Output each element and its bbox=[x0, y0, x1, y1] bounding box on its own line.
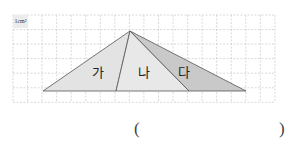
answer-open-paren: ( bbox=[134, 119, 140, 139]
triangle-region-0 bbox=[43, 31, 130, 91]
unit-area-label: 1cm² bbox=[13, 15, 28, 28]
region-label-na: 나 bbox=[138, 66, 150, 79]
region-label-da: 다 bbox=[178, 66, 190, 79]
region-label-ga: 가 bbox=[92, 66, 104, 79]
answer-close-paren: ) bbox=[279, 119, 285, 139]
triangle-regions bbox=[43, 31, 246, 91]
triangle-grid-figure bbox=[0, 0, 287, 110]
